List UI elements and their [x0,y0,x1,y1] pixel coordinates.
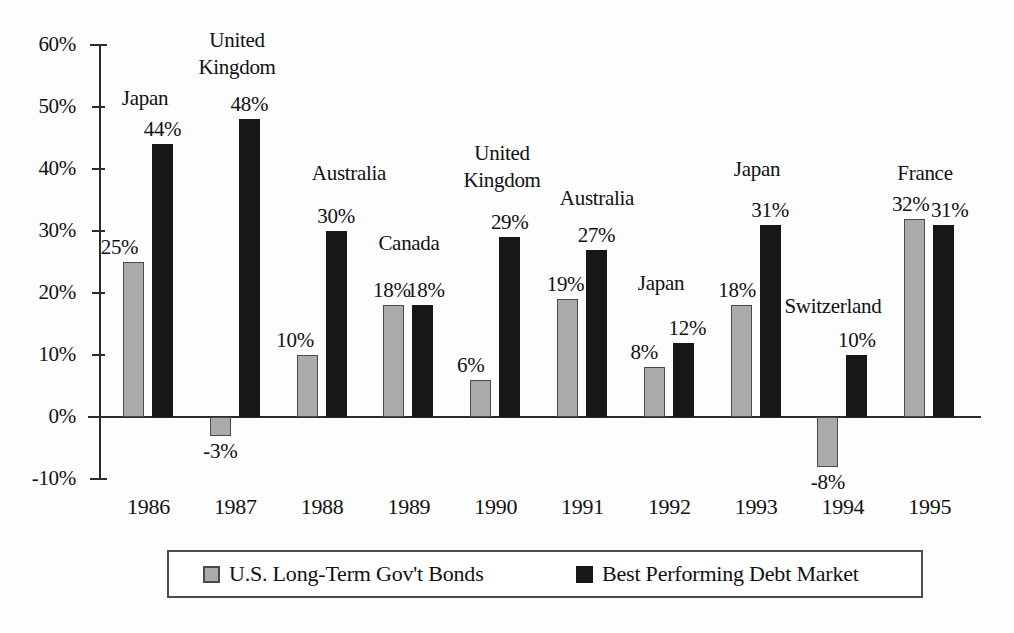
country-label-1993: Japan [677,158,837,180]
y-axis-label-0: 0% [14,406,76,427]
bar-gray-1987 [210,417,231,436]
legend-label-us-bonds: U.S. Long-Term Gov't Bonds [229,562,484,586]
y-tick-20 [92,292,105,294]
x-axis-label-1992: 1992 [624,496,714,518]
value-label-black-1990: 29% [460,211,560,233]
legend-swatch-black [576,566,593,583]
bar-black-1986 [152,144,173,417]
bar-gray-1990 [470,380,491,417]
y-axis-label-60: 60% [14,34,76,55]
y-axis-label-40: 40% [14,158,76,179]
y-axis-line [99,45,101,478]
bar-black-1990 [499,237,520,417]
country-label-1991: Australia [517,187,677,209]
x-axis-label-1986: 1986 [104,496,194,518]
x-axis-label-1995: 1995 [885,496,975,518]
bar-gray-1994 [817,417,838,467]
y-axis-label-30: 30% [14,220,76,241]
bar-gray-1988 [297,355,318,417]
value-label-black-1991: 27% [547,224,647,246]
value-label-gray-1988: 10% [245,329,345,351]
value-label-gray-1987: -3% [170,440,270,462]
legend-swatch-gray [203,566,220,583]
x-axis-label-1991: 1991 [538,496,628,518]
legend-item-us-bonds: U.S. Long-Term Gov't Bonds [203,562,484,586]
value-label-gray-1986: 25% [70,236,170,258]
x-axis-label-1993: 1993 [711,496,801,518]
y-tick-10 [92,354,105,356]
bar-black-1995 [933,225,954,417]
country-label-1989: Canada [329,232,489,254]
x-axis-label-1989: 1989 [364,496,454,518]
legend-label-best-market: Best Performing Debt Market [602,562,859,586]
value-label-black-1995: 31% [900,199,1000,221]
value-label-black-1988: 30% [286,205,386,227]
country-label-1987: United [157,29,317,51]
value-label-black-1986: 44% [113,118,213,140]
country-label-1987: Kingdom [157,56,317,78]
x-axis-label-1990: 1990 [451,496,541,518]
y-axis-label-10: 10% [14,344,76,365]
country-label-1994: Switzerland [753,295,913,317]
bar-gray-1991 [557,299,578,417]
y-tick-0 [92,416,105,418]
legend-item-best-market: Best Performing Debt Market [576,562,859,586]
bar-black-1987 [239,119,260,417]
country-label-1986: Japan [65,87,225,109]
bar-black-1993 [760,225,781,417]
value-label-black-1989: 18% [376,279,476,301]
chart-legend: U.S. Long-Term Gov't Bonds Best Performi… [167,550,923,598]
value-label-gray-1994: -8% [778,471,878,493]
y-tick-30 [92,230,105,232]
bar-gray-1992 [644,367,665,417]
country-label-1992: Japan [581,272,741,294]
bar-black-1988 [326,231,347,417]
bar-black-1994 [846,355,867,417]
x-axis-label-1987: 1987 [190,496,280,518]
y-tick-40 [92,168,105,170]
value-label-black-1993: 31% [720,199,820,221]
bar-gray-1986 [123,262,144,417]
country-label-1995: France [845,162,1005,184]
y-tick-60 [90,44,107,46]
y-tick--10 [90,478,107,480]
bar-chart: 60%50%40%30%20%10%0%-10% 25%44%-3%48%10%… [0,0,1014,633]
country-label-1988: Australia [269,162,429,184]
x-axis-label-1994: 1994 [798,496,888,518]
value-label-gray-1990: 6% [421,354,521,376]
value-label-gray-1992: 8% [594,341,694,363]
y-axis-label--10: -10% [14,468,76,489]
country-label-1990: United [422,142,582,164]
x-axis-label-1988: 1988 [277,496,367,518]
bar-gray-1989 [383,305,404,417]
y-axis-label-20: 20% [14,282,76,303]
bar-gray-1995 [904,219,925,417]
value-label-black-1994: 10% [807,329,907,351]
value-label-black-1992: 12% [637,317,737,339]
